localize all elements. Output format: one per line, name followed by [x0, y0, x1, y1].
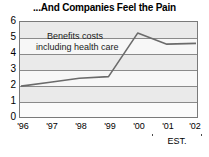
chart-container: ...And Companies Feel the Pain 6 5 4 3 2… — [0, 0, 209, 157]
x-tick-label-97: '97 — [46, 121, 58, 131]
x-tick-label-99: '99 — [104, 121, 116, 131]
estimate-bracket: EST. — [150, 133, 206, 147]
y-tick-label-4: 4 — [10, 48, 16, 58]
estimate-bracket-label: EST. — [150, 136, 204, 146]
series-label-line-1: Benefits costs — [47, 31, 103, 42]
x-tick-label-98: '98 — [75, 121, 87, 131]
x-tick-label-02: '02 — [189, 121, 201, 131]
y-tick-label-2: 2 — [10, 80, 16, 90]
y-tick-label-5: 5 — [10, 32, 16, 42]
y-tick-label-6: 6 — [10, 16, 16, 26]
plot-area — [19, 21, 198, 118]
y-tick-label-1: 1 — [10, 96, 16, 106]
y-axis: 6 5 4 3 2 1 0 — [0, 16, 16, 123]
x-tick-label-00: '00 — [133, 121, 145, 131]
x-tick-label-01: '01 — [162, 121, 174, 131]
y-tick-label-3: 3 — [10, 64, 16, 74]
chart-title: ...And Companies Feel the Pain — [0, 2, 209, 14]
series-label-line-2: including health care — [36, 42, 119, 53]
x-tick-label-96: '96 — [17, 121, 29, 131]
